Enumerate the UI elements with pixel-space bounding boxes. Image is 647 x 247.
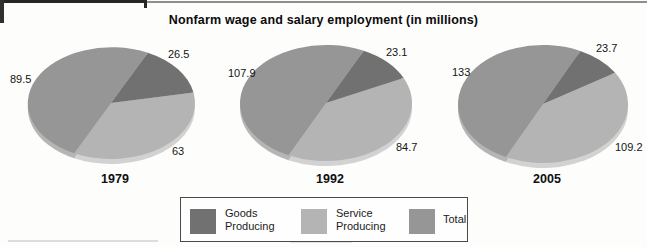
legend-swatch-goods	[190, 209, 216, 234]
value-label-service: 84.7	[396, 141, 417, 153]
pie-chart-2005: 133 23.7 109.2	[452, 40, 642, 175]
chart-title: Nonfarm wage and salary employment (in m…	[0, 13, 647, 27]
scan-artifact-top-line-gray	[147, 1, 647, 3]
pie-chart-1992: 107.9 23.1 84.7	[235, 40, 425, 175]
value-label-goods: 23.7	[596, 42, 617, 54]
pie-chart-1979: 89.5 26.5 63	[20, 40, 210, 175]
value-label-total: 133	[452, 66, 470, 78]
legend: Goods Producing Service Producing Total	[180, 197, 468, 242]
value-label-service: 109.2	[615, 141, 643, 153]
legend-label-service: Service Producing	[336, 207, 398, 233]
value-label-total: 107.9	[228, 67, 256, 79]
value-label-goods: 23.1	[386, 46, 407, 58]
value-label-service: 63	[172, 145, 184, 157]
year-label-1992: 1992	[235, 172, 425, 186]
value-label-total: 89.5	[10, 73, 31, 85]
legend-label-goods: Goods Producing	[225, 207, 287, 233]
year-label-2005: 2005	[452, 172, 642, 186]
scanned-chart-figure: Nonfarm wage and salary employment (in m…	[0, 0, 647, 247]
pie-1992-svg	[235, 40, 425, 175]
scan-artifact-bottom-streak	[8, 240, 158, 242]
pie-2005-svg	[452, 40, 642, 175]
legend-swatch-service	[301, 209, 327, 234]
legend-label-total: Total	[443, 213, 483, 226]
legend-swatch-total	[409, 209, 435, 234]
value-label-goods: 26.5	[168, 48, 189, 60]
year-label-1979: 1979	[20, 172, 210, 186]
scan-artifact-top-line-dark	[2, 0, 146, 3]
